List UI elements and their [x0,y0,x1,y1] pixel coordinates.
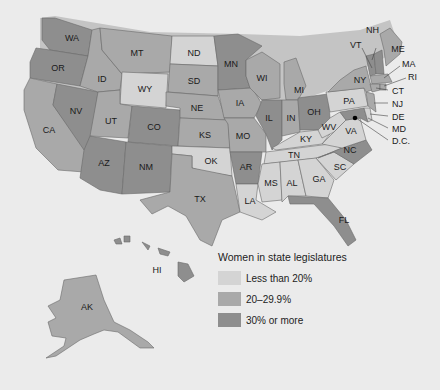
legend-swatch-low [218,271,241,285]
label-ks: KS [199,130,211,140]
label-vt: VT [350,40,362,50]
label-de: DE [392,112,405,122]
label-mn: MN [224,59,238,69]
legend-swatch-mid [218,292,241,306]
label-ma: MA [402,59,416,69]
label-wa: WA [65,33,79,43]
label-in: IN [287,113,296,123]
label-va: VA [345,126,356,136]
label-nh: NH [366,25,379,35]
label-ny: NY [354,75,367,85]
legend-title: Women in state legislatures [218,251,347,263]
label-co: CO [147,122,161,132]
label-ut: UT [105,116,117,126]
legend-label-mid: 20–29.9% [246,294,291,305]
label-ky: KY [300,134,312,144]
state-ct [370,84,380,92]
label-pa: PA [343,96,354,106]
leader-ma [384,66,400,78]
legend-item-mid: 20–29.9% [218,292,347,306]
label-tx: TX [194,194,206,204]
leader-de [370,114,388,116]
label-hi: HI [153,265,162,275]
label-tn: TN [288,150,300,160]
label-id: ID [98,74,108,84]
label-wv: WV [322,122,337,132]
label-nv: NV [70,106,83,116]
label-al: AL [286,178,297,188]
label-ga: GA [312,174,325,184]
label-nj: NJ [392,99,403,109]
label-mt: MT [131,48,144,58]
label-nc: NC [344,145,357,155]
label-ar: AR [240,162,253,172]
label-ak: AK [81,302,93,312]
label-nm: NM [139,162,153,172]
label-ne: NE [191,103,204,113]
label-il: IL [265,113,273,123]
label-me: ME [391,44,405,54]
label-ca: CA [43,125,56,135]
state-ak [46,275,154,358]
label-wy: WY [138,84,153,94]
state-nh [374,50,384,74]
legend-item-low: Less than 20% [218,271,347,285]
label-sd: SD [188,76,201,86]
label-ri: RI [408,72,417,82]
leader-md [368,118,388,128]
label-ok: OK [204,156,217,166]
state-hi [114,236,194,282]
state-ma [370,74,392,84]
label-ms: MS [264,178,278,188]
legend: Women in state legislatures Less than 20… [218,251,347,334]
label-mi: MI [294,85,304,95]
legend-label-high: 30% or more [246,315,303,326]
label-md: MD [392,124,406,134]
dc-marker [353,116,358,121]
label-ct: CT [392,86,404,96]
label-sc: SC [334,162,347,172]
label-dc: D.C. [392,136,410,146]
legend-item-high: 30% or more [218,313,347,327]
legend-swatch-high [218,313,241,327]
label-oh: OH [307,107,321,117]
label-wi: WI [257,73,268,83]
label-ia: IA [236,98,245,108]
legend-label-low: Less than 20% [246,273,312,284]
label-or: OR [51,63,65,73]
label-az: AZ [98,158,110,168]
label-fl: FL [339,215,350,225]
label-nd: ND [188,48,201,58]
label-mo: MO [236,131,251,141]
label-la: LA [244,196,255,206]
